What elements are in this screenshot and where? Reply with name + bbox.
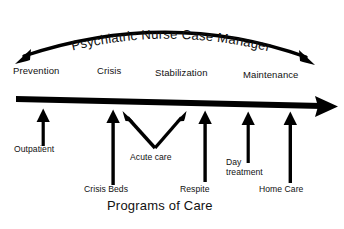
program-label-acute-care: Acute care [130,153,172,162]
diagram-canvas [0,0,344,229]
psychiatric-care-continuum-diagram: Psychiatric Nurse Case Manager Preventio… [0,0,344,229]
stage-label-maintenance: Maintenance [243,70,299,80]
program-arrow-home-care-icon [284,112,297,184]
figure-caption: Programs of Care [107,199,213,213]
stage-label-stabilization: Stabilization [155,68,208,78]
acute-care-v-arrow-icon [123,111,187,148]
program-label-home-care: Home Care [259,185,303,194]
program-arrow-crisis-beds-icon [106,110,119,186]
program-arrow-outpatient-icon [37,109,50,147]
program-label-day-treatment-line1: Day [226,157,263,167]
program-label-day-treatment-line2: treatment [226,167,263,177]
program-label-crisis-beds: Crisis Beds [84,185,128,194]
program-label-outpatient: Outpatient [14,145,54,154]
program-arrow-respite-icon [198,111,211,183]
program-label-respite: Respite [180,185,210,194]
program-arrow-day-treatment-icon [242,112,255,164]
arc-arrow-icon [15,32,315,65]
stage-label-crisis: Crisis [97,66,121,76]
stage-label-prevention: Prevention [13,66,59,76]
program-label-day-treatment: Day treatment [226,157,263,178]
